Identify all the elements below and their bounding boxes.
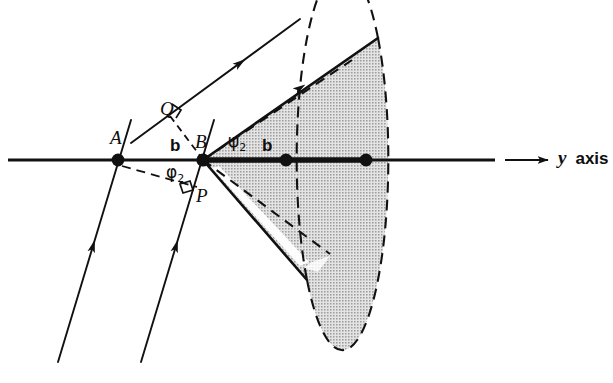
phi-subscript: 2 [177,172,184,185]
construction-lines [122,116,201,187]
scattering-cone [203,0,388,350]
dashed-line-a-to-p [122,166,197,187]
point-dot-a [112,154,125,167]
figure-canvas [0,0,613,383]
scattering-cone-figure: A B Q P b b ψ2 φ2 yaxis [0,0,613,383]
psi-symbol: ψ [228,131,239,151]
label-y-axis: yaxis [558,148,609,167]
y-axis-word: axis [575,149,608,168]
psi-subscript: 2 [239,141,246,154]
axis-dot-1 [280,154,293,167]
y-axis-symbol: y [558,147,566,168]
point-dot-b [196,153,209,166]
incoming-rays [58,120,214,362]
label-point-b: B [195,132,207,151]
label-angle-psi-2: ψ2 [228,133,246,153]
label-angle-phi-2: φ2 [166,164,184,184]
phi-symbol: φ [166,162,177,182]
label-impact-parameter-left: b [170,137,180,154]
cone-filled-body [203,38,388,350]
axis-dot-2 [360,154,373,167]
label-point-p: P [196,186,208,205]
label-point-q: Q [160,99,174,118]
label-impact-parameter-right: b [262,137,272,154]
label-point-a: A [110,128,122,147]
